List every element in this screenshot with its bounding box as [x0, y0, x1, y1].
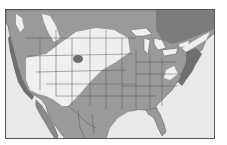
map-frame [5, 9, 215, 139]
range-dark-spot [73, 55, 83, 63]
range-map [6, 10, 215, 139]
